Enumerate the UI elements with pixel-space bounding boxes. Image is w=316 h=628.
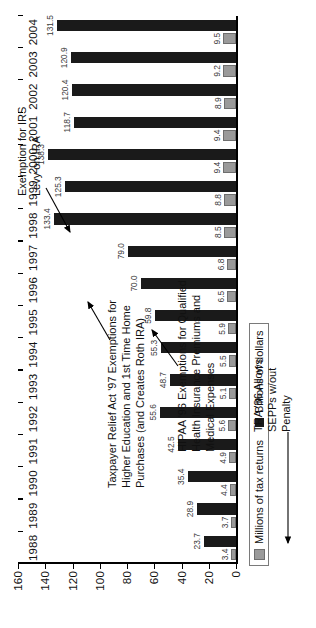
bar-chart-figure: 020406080100120140160 198819891990199119… <box>0 0 316 628</box>
bar-value-label: 8.9 <box>213 97 223 109</box>
annotation-hipaa: HIPAA '96 Exemptions for Qualified Healt… <box>176 280 218 452</box>
bar-value-label: 55.3 <box>149 340 159 356</box>
bar-dollars: 133.4 <box>54 213 236 224</box>
y-tick-label: 0 <box>230 571 242 578</box>
bar-group: 8.5133.4 <box>18 213 236 237</box>
bar-group: 8.9120.4 <box>18 84 236 108</box>
bar-returns: 6.5 <box>227 291 236 302</box>
bar-value-label: 9.4 <box>212 130 222 142</box>
bar-returns: 4.4 <box>230 484 236 495</box>
bar-value-label: 48.7 <box>158 372 168 388</box>
annotation-irs-levy: Exemption for IRS Levy on IRA <box>16 107 44 196</box>
bar-returns: 5.6 <box>228 420 236 431</box>
y-tick <box>127 564 128 569</box>
legend-item-returns: Millions of tax returns <box>253 440 265 560</box>
bar-returns: 8.5 <box>224 227 236 238</box>
y-tick-label: 120 <box>67 571 79 591</box>
bar-group: 6.879.0 <box>18 246 236 270</box>
bar-returns: 8.9 <box>224 98 236 109</box>
bar-dollars: 35.4 <box>188 471 236 482</box>
y-tick-label: 160 <box>12 571 24 591</box>
annotation-taxpayer-relief: Taxpayer Relief Act '97 Exemptions for H… <box>106 300 148 488</box>
y-tick-label: 40 <box>176 571 188 584</box>
bar-group: 3.423.7 <box>18 536 236 560</box>
x-tick <box>18 466 23 467</box>
bar-returns: 8.8 <box>224 194 236 205</box>
bar-group: 9.4138.3 <box>18 149 236 173</box>
bar-value-label: 5.9 <box>217 323 227 335</box>
y-tick-label: 20 <box>203 571 215 584</box>
bar-returns: 5.1 <box>229 388 236 399</box>
bar-group: 8.8125.3 <box>18 181 236 205</box>
bar-value-label: 9.5 <box>212 33 222 45</box>
bar-value-label: 4.9 <box>218 452 228 464</box>
y-tick <box>154 564 155 569</box>
bar-dollars: 79.0 <box>128 246 236 257</box>
bar-dollars: 23.7 <box>204 536 236 547</box>
x-tick <box>18 498 23 499</box>
bar-dollars: 131.5 <box>57 20 236 31</box>
y-tick-label: 100 <box>94 571 106 591</box>
y-tick-label: 80 <box>121 571 133 584</box>
y-tick <box>209 564 210 569</box>
bar-returns: 9.2 <box>223 65 236 76</box>
bar-returns: 9.4 <box>223 162 236 173</box>
x-tick <box>18 47 23 48</box>
y-tick-label: 140 <box>39 571 51 591</box>
y-tick <box>236 564 237 569</box>
y-tick <box>45 564 46 569</box>
rotated-figure-container: 020406080100120140160 198819891990199119… <box>0 0 316 628</box>
x-axis-line <box>236 16 238 564</box>
x-tick <box>18 15 23 16</box>
bar-value-label: 55.6 <box>148 404 158 420</box>
x-tick <box>18 369 23 370</box>
bar-value-label: 3.4 <box>220 549 230 561</box>
bar-returns: 4.9 <box>229 452 236 463</box>
x-tick <box>18 273 23 274</box>
x-tick <box>18 531 23 532</box>
bar-dollars: 118.7 <box>74 117 236 128</box>
bar-returns: 6.8 <box>227 259 236 270</box>
returns-swatch-icon <box>254 549 265 560</box>
bar-value-label: 42.5 <box>166 436 176 452</box>
legend-label-returns: Millions of tax returns <box>253 440 265 544</box>
bar-returns: 3.7 <box>231 517 236 528</box>
bar-value-label: 125.3 <box>53 176 63 197</box>
y-tick <box>18 564 19 569</box>
x-tick <box>18 402 23 403</box>
bar-dollars: 120.9 <box>71 52 236 63</box>
bar-value-label: 79.0 <box>116 243 126 259</box>
y-tick <box>100 564 101 569</box>
bar-value-label: 23.7 <box>192 533 202 549</box>
bar-value-label: 120.9 <box>59 47 69 68</box>
bar-group: 9.2120.9 <box>18 52 236 76</box>
bar-returns: 5.5 <box>229 356 236 367</box>
bar-value-label: 4.4 <box>219 484 229 496</box>
bar-returns: 9.4 <box>223 130 236 141</box>
bar-group: 9.5131.5 <box>18 20 236 44</box>
bar-value-label: 5.5 <box>218 355 228 367</box>
bar-dollars: 125.3 <box>65 181 236 192</box>
annotation-tra86: TRA '86 Allows SEPPs w/out Penalty <box>252 359 294 432</box>
bar-value-label: 3.7 <box>220 516 230 528</box>
bar-value-label: 8.8 <box>213 194 223 206</box>
bar-dollars: 138.3 <box>48 149 236 160</box>
bar-value-label: 35.4 <box>176 469 186 485</box>
bar-value-label: 9.4 <box>212 162 222 174</box>
x-tick <box>18 434 23 435</box>
bar-value-label: 131.5 <box>45 15 55 36</box>
y-tick <box>73 564 74 569</box>
bar-value-label: 133.4 <box>42 208 52 229</box>
bar-value-label: 5.1 <box>218 388 228 400</box>
y-tick <box>182 564 183 569</box>
bar-value-label: 6.5 <box>216 291 226 303</box>
x-tick <box>18 337 23 338</box>
bar-value-label: 120.4 <box>60 80 70 101</box>
bar-value-label: 5.6 <box>217 420 227 432</box>
x-tick <box>18 305 23 306</box>
bar-value-label: 118.7 <box>62 112 72 132</box>
bar-returns: 3.4 <box>231 549 236 560</box>
bar-value-label: 6.8 <box>216 259 226 271</box>
bar-dollars: 28.9 <box>197 503 236 514</box>
x-tick <box>18 240 23 241</box>
